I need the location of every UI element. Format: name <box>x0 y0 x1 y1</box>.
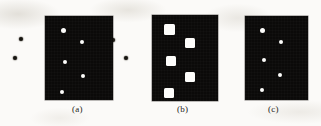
panel-caption-b: (b) <box>177 104 188 115</box>
marker-dot <box>262 58 266 62</box>
panel-c <box>245 16 308 100</box>
marker-square <box>185 38 195 48</box>
marker-dot <box>60 90 64 94</box>
panel-caption-c: (c) <box>268 104 279 115</box>
marker-dot <box>61 28 66 33</box>
marker-square <box>185 72 195 82</box>
panel-caption-a: (a) <box>72 104 83 115</box>
stray-dot <box>13 56 17 60</box>
marker-dot <box>80 40 84 44</box>
marker-dot <box>260 88 264 92</box>
panel-b <box>152 15 218 101</box>
marker-square <box>166 56 176 66</box>
panel-a <box>45 16 113 100</box>
panel-grain-texture <box>45 16 113 100</box>
marker-dot <box>81 74 85 78</box>
marker-dot <box>63 60 67 64</box>
figure-container: (a)(b)(c) <box>0 0 321 126</box>
panel-grain-texture <box>245 16 308 100</box>
marker-square <box>164 88 174 98</box>
marker-dot <box>278 73 282 77</box>
panel-grain-texture <box>152 15 218 101</box>
marker-dot <box>260 28 265 33</box>
stray-dot <box>124 56 128 60</box>
stray-dot <box>19 37 23 41</box>
marker-dot <box>279 40 283 44</box>
marker-square <box>164 24 175 35</box>
